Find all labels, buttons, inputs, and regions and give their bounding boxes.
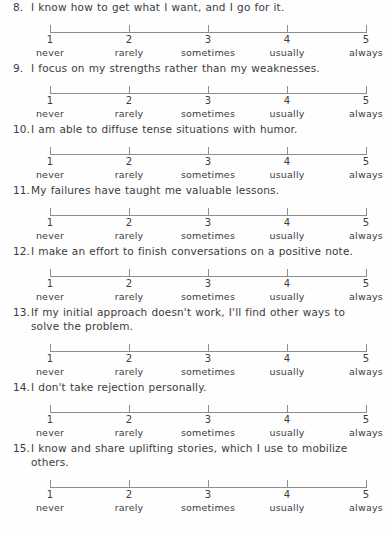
scale-point-value[interactable]: 3 [173,353,243,365]
scale-tick [129,344,130,352]
likert-scale[interactable]: 1never2rarely3sometimes4usually5always [50,82,366,122]
question-number: 13. [13,305,31,319]
scale-point-value[interactable]: 5 [331,278,385,290]
scale-point-value[interactable]: 5 [331,217,385,229]
scale-anchor-label[interactable]: always [321,108,385,120]
scale-point-value[interactable]: 4 [252,278,322,290]
scale-point-value[interactable]: 2 [94,353,164,365]
scale-anchor-label[interactable]: always [321,291,385,303]
scale-anchor-label[interactable]: never [5,366,95,378]
scale-tick [129,147,130,155]
scale-anchor-label[interactable]: rarely [84,47,174,59]
question-row: 12.I make an effort to finish conversati… [0,244,385,258]
scale-point-value[interactable]: 2 [94,278,164,290]
scale-anchor-label[interactable]: usually [242,291,332,303]
likert-scale[interactable]: 1never2rarely3sometimes4usually5always [50,265,366,305]
scale-point-value[interactable]: 3 [173,95,243,107]
scale-anchor-label[interactable]: never [5,502,95,514]
scale-anchor-label[interactable]: usually [242,169,332,181]
scale-point-value[interactable]: 2 [94,156,164,168]
scale-point-value[interactable]: 3 [173,414,243,426]
scale-anchor-label[interactable]: sometimes [163,47,253,59]
scale-point-value[interactable]: 5 [331,414,385,426]
scale-anchor-label[interactable]: rarely [84,427,174,439]
scale-point-value[interactable]: 1 [15,156,85,168]
scale-point-value[interactable]: 3 [173,217,243,229]
scale-anchor-label[interactable]: always [321,366,385,378]
scale-anchor-label[interactable]: usually [242,502,332,514]
scale-anchor-label[interactable]: rarely [84,108,174,120]
scale-anchor-label[interactable]: sometimes [163,366,253,378]
likert-scale[interactable]: 1never2rarely3sometimes4usually5always [50,143,366,183]
scale-point-value[interactable]: 5 [331,489,385,501]
scale-point-value[interactable]: 5 [331,34,385,46]
scale-tick [208,269,209,277]
scale-point-value[interactable]: 2 [94,414,164,426]
scale-point-value[interactable]: 4 [252,95,322,107]
scale-tick [129,208,130,216]
scale-point-value[interactable]: 5 [331,156,385,168]
scale-point-value[interactable]: 2 [94,489,164,501]
scale-tick [287,25,288,33]
scale-point-value[interactable]: 1 [15,217,85,229]
scale-point-value[interactable]: 5 [331,95,385,107]
scale-point-value[interactable]: 2 [94,95,164,107]
scale-point-value[interactable]: 4 [252,156,322,168]
scale-anchor-label[interactable]: always [321,427,385,439]
survey-item: 14.I don't take rejection personally.1ne… [0,380,385,441]
scale-tick [366,147,367,155]
scale-point-value[interactable]: 4 [252,34,322,46]
likert-scale[interactable]: 1never2rarely3sometimes4usually5always [50,401,366,441]
scale-tick [208,86,209,94]
scale-point-value[interactable]: 3 [173,489,243,501]
scale-anchor-label[interactable]: sometimes [163,108,253,120]
scale-point-value[interactable]: 2 [94,34,164,46]
scale-anchor-label[interactable]: rarely [84,169,174,181]
scale-point-value[interactable]: 3 [173,278,243,290]
scale-anchor-label[interactable]: never [5,169,95,181]
likert-scale[interactable]: 1never2rarely3sometimes4usually5always [50,21,366,61]
scale-point-value[interactable]: 1 [15,353,85,365]
scale-point-value[interactable]: 4 [252,353,322,365]
scale-point-value[interactable]: 2 [94,217,164,229]
likert-scale[interactable]: 1never2rarely3sometimes4usually5always [50,476,366,516]
scale-anchor-label[interactable]: rarely [84,291,174,303]
scale-anchor-label[interactable]: usually [242,47,332,59]
scale-point-value[interactable]: 1 [15,414,85,426]
scale-point-value[interactable]: 1 [15,95,85,107]
scale-anchor-label[interactable]: usually [242,366,332,378]
likert-scale[interactable]: 1never2rarely3sometimes4usually5always [50,204,366,244]
likert-scale[interactable]: 1never2rarely3sometimes4usually5always [50,340,366,380]
scale-anchor-label[interactable]: sometimes [163,230,253,242]
scale-anchor-label[interactable]: sometimes [163,502,253,514]
scale-anchor-label[interactable]: usually [242,427,332,439]
scale-point-value[interactable]: 3 [173,34,243,46]
scale-anchor-label[interactable]: always [321,502,385,514]
scale-anchor-label[interactable]: never [5,230,95,242]
scale-point-value[interactable]: 1 [15,278,85,290]
scale-point-value[interactable]: 4 [252,489,322,501]
scale-anchor-label[interactable]: rarely [84,502,174,514]
scale-anchor-label[interactable]: usually [242,230,332,242]
scale-anchor-label[interactable]: never [5,108,95,120]
scale-anchor-label[interactable]: always [321,230,385,242]
scale-anchor-label[interactable]: rarely [84,230,174,242]
question-text: I know and share uplifting stories, whic… [31,441,377,469]
scale-point-value[interactable]: 1 [15,489,85,501]
questionnaire-page: 8.I know how to get what I want, and I g… [0,0,385,535]
scale-anchor-label[interactable]: usually [242,108,332,120]
scale-anchor-label[interactable]: rarely [84,366,174,378]
scale-point-value[interactable]: 4 [252,414,322,426]
scale-anchor-label[interactable]: never [5,291,95,303]
scale-anchor-label[interactable]: sometimes [163,291,253,303]
scale-anchor-label[interactable]: sometimes [163,427,253,439]
scale-point-value[interactable]: 3 [173,156,243,168]
scale-point-value[interactable]: 4 [252,217,322,229]
scale-anchor-label[interactable]: sometimes [163,169,253,181]
scale-anchor-label[interactable]: always [321,169,385,181]
scale-point-value[interactable]: 5 [331,353,385,365]
scale-anchor-label[interactable]: never [5,47,95,59]
scale-anchor-label[interactable]: never [5,427,95,439]
scale-point-value[interactable]: 1 [15,34,85,46]
scale-anchor-label[interactable]: always [321,47,385,59]
